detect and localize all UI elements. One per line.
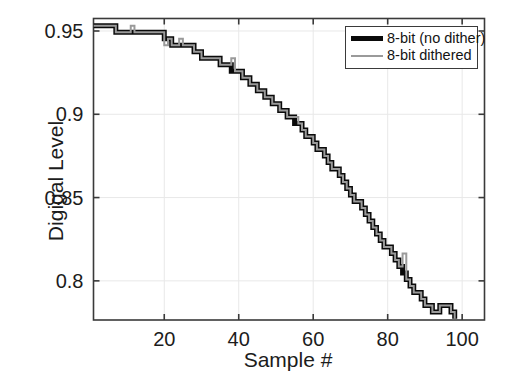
data-series-group xyxy=(94,26,455,319)
y-tick-label: 0.95 xyxy=(0,19,84,42)
legend-swatch-dithered-icon xyxy=(351,55,383,57)
series-line-no-dither xyxy=(94,26,455,319)
x-tick-label: 20 xyxy=(153,328,175,351)
x-tick-label: 40 xyxy=(228,328,250,351)
legend-item-dithered: 8-bit dithered xyxy=(351,47,472,64)
legend-label-dithered: 8-bit dithered xyxy=(387,48,472,63)
legend-item-no-dither: 8-bit (no dither) xyxy=(351,30,472,47)
x-tick-label: 60 xyxy=(302,328,324,351)
legend-box: 8-bit (no dither) 8-bit dithered xyxy=(345,26,478,69)
legend-swatch-no-dither-icon xyxy=(351,36,383,41)
x-axis-label: Sample # xyxy=(244,348,333,372)
y-tick-label: 0.9 xyxy=(0,103,84,126)
x-tick-label: 100 xyxy=(445,328,478,351)
x-tick-label: 80 xyxy=(377,328,399,351)
y-tick-label: 0.8 xyxy=(0,269,84,292)
chart-figure: Digigal Level Sample # 204060801000.80.8… xyxy=(0,0,510,385)
legend-label-no-dither: 8-bit (no dither) xyxy=(387,31,485,46)
y-tick-label: 0.85 xyxy=(0,186,84,209)
